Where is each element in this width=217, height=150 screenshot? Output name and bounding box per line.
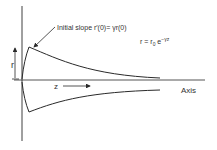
r-axis-label: r: [11, 60, 14, 70]
decay-equation: r = r0 e−γz: [140, 36, 170, 47]
lower-ray-curve: [22, 82, 160, 112]
equation-base: r = r: [140, 38, 153, 45]
z-axis-label: z: [54, 82, 58, 91]
upper-ray-curve: [22, 47, 160, 79]
slope-leader-arrow-icon: [34, 27, 55, 47]
axis-label: Axis: [181, 86, 196, 95]
equation-exponent: −γz: [161, 36, 169, 42]
initial-slope-label: Initial slope r′(0)= γr(0): [57, 24, 127, 32]
exponential-ray-diagram: r z Axis Initial slope r′(0)= γr(0) r = …: [0, 0, 217, 150]
